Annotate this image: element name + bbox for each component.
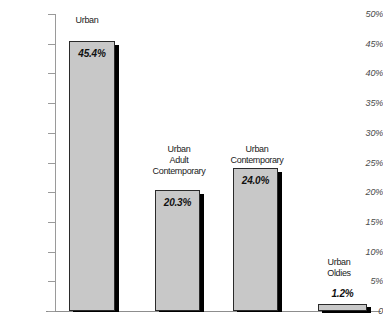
- y-tick-mark: [48, 103, 55, 104]
- y-tick-mark: [48, 44, 55, 45]
- bar-value-label: 45.4%: [69, 48, 115, 59]
- bar-chart: 50% 45% 40% 35% 30% 25% 20% 15% 10% 5% 0…: [0, 0, 383, 332]
- y-tick-label: 40%: [343, 68, 383, 78]
- y-tick-label: 15%: [343, 217, 383, 227]
- y-tick-label: 45%: [343, 39, 383, 49]
- bar-value-label: 24.0%: [233, 175, 278, 186]
- bar-urban[interactable]: [69, 41, 115, 311]
- y-tick-mark: [48, 14, 55, 15]
- y-tick-mark: [48, 163, 55, 164]
- bar-category-label: Urban: [56, 15, 118, 26]
- y-tick-label: 50%: [343, 9, 383, 19]
- bar-urban-adult-contemporary[interactable]: [155, 190, 200, 311]
- y-tick-mark: [48, 311, 55, 312]
- y-tick-label: 10%: [343, 247, 383, 257]
- bar-category-label: Urban Adult Contemporary: [143, 144, 215, 177]
- y-tick-mark: [48, 281, 55, 282]
- y-tick-label: 35%: [343, 98, 383, 108]
- bar-category-label: Urban Contemporary: [220, 144, 294, 166]
- bar-value-label: 1.2%: [318, 288, 367, 299]
- bar-urban-contemporary[interactable]: [233, 168, 278, 311]
- y-axis-line: [55, 14, 56, 312]
- y-tick-label: 30%: [343, 128, 383, 138]
- y-tick-label: 20%: [343, 187, 383, 197]
- bar-urban-oldies[interactable]: [318, 304, 367, 311]
- y-tick-mark: [48, 222, 55, 223]
- y-tick-mark: [48, 252, 55, 253]
- y-tick-label: 25%: [343, 158, 383, 168]
- bar-value-label: 20.3%: [155, 197, 200, 208]
- bar-category-label: Urban Oldies: [308, 257, 370, 279]
- y-tick-mark: [48, 192, 55, 193]
- y-tick-mark: [48, 133, 55, 134]
- y-tick-mark: [48, 73, 55, 74]
